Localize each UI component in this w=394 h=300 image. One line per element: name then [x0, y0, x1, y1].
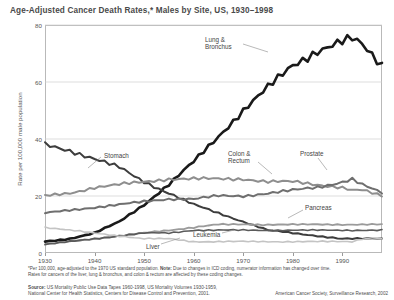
footnote-line-2: Rates for cancers of the liver, lung & b… [28, 272, 388, 278]
x-axis-tick: 1970 [236, 257, 250, 264]
series-label-colon-rectum: Colon &Rectum [228, 150, 250, 165]
footnote-asterisk-text: *Per 100,000, age-adjusted to the 1970 U… [28, 266, 159, 271]
y-axis-tick: 0 [39, 250, 42, 257]
x-axis-tick-mark [144, 253, 145, 256]
series-label-pancreas: Pancreas [305, 204, 332, 211]
leader-line-pancreas [288, 210, 303, 218]
x-axis-tick: 1990 [335, 257, 349, 264]
x-axis-tick: 1930 [38, 257, 52, 264]
x-axis-tick: 1960 [187, 257, 201, 264]
x-axis-tick: 1950 [137, 257, 151, 264]
y-axis-label: Rate per 100,000 male population [12, 25, 26, 253]
plot-area: 020406080 1930194019501960197019801990 L… [45, 25, 382, 253]
series-label-liver: Liver [146, 243, 160, 250]
footnote-note-text: Due to changes in ICD coding, numerator … [173, 266, 331, 271]
y-axis-label-wrap: Rate per 100,000 male population [12, 25, 26, 253]
x-axis-tick-mark [194, 253, 195, 256]
source-text-1: US Mortality Public Use Data Tapes 1960-… [47, 285, 217, 290]
y-axis-tick: 20 [35, 193, 42, 200]
chart-page: Age-Adjusted Cancer Death Rates,* Males … [0, 0, 394, 300]
leader-line-colon-rectum [258, 162, 272, 174]
source-text-2: National Center for Health Statistics, C… [28, 291, 258, 297]
series-label-stomach: Stomach [104, 152, 129, 159]
page-title: Age-Adjusted Cancer Death Rates,* Males … [10, 6, 273, 15]
chart-canvas [45, 25, 382, 253]
x-axis-tick: 1980 [286, 257, 300, 264]
y-axis-tick: 80 [35, 22, 42, 29]
y-axis-tick: 40 [35, 136, 42, 143]
y-axis-tick: 60 [35, 79, 42, 86]
leader-line-prostate [318, 158, 327, 170]
x-axis-tick-mark [45, 253, 46, 256]
x-axis-tick-mark [293, 253, 294, 256]
x-axis-tick-mark [342, 253, 343, 256]
series-label-prostate: Prostate [300, 150, 323, 157]
x-axis-tick-mark [95, 253, 96, 256]
credit-text: American Cancer Society, Surveillance Re… [275, 291, 388, 296]
leader-line-lung-bronchus [243, 44, 268, 52]
x-axis-tick-mark [243, 253, 244, 256]
series-label-lung-bronchus: Lung &Bronchus [205, 36, 232, 51]
source-label: Source: [28, 285, 45, 290]
footnote-block: *Per 100,000, age-adjusted to the 1970 U… [28, 266, 388, 279]
footnote-note-bold: Note: [160, 266, 172, 271]
series-label-leukemia: Leukemia [193, 231, 220, 238]
x-axis-tick: 1940 [88, 257, 102, 264]
series-line-colon-rectum [45, 177, 382, 196]
source-block: Source: US Mortality Public Use Data Tap… [28, 285, 258, 298]
